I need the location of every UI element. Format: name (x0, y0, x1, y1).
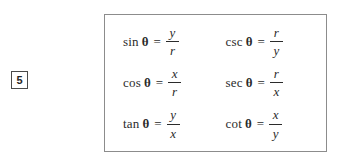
fraction: x y (269, 108, 282, 140)
fraction-numerator: y (168, 26, 178, 40)
fraction-denominator: y (271, 44, 281, 58)
theta-symbol: θ (246, 34, 253, 50)
equals-sign: = (258, 75, 265, 91)
fraction-bar (168, 82, 181, 83)
fraction: y r (166, 26, 179, 58)
formula-row: tan θ = y x cot θ = x y (113, 104, 318, 145)
fraction: x r (168, 67, 181, 99)
formula-csc: csc θ = r y (216, 26, 319, 58)
fraction-denominator: r (170, 85, 179, 99)
equation-number-label: 5 (16, 75, 22, 86)
theta-symbol: θ (245, 116, 252, 132)
fraction-bar (270, 41, 283, 42)
trig-identity-panel: sin θ = y r csc θ = r y cos θ = (104, 14, 327, 152)
fraction-numerator: x (271, 108, 281, 122)
theta-symbol: θ (246, 75, 253, 91)
equals-sign: = (257, 116, 264, 132)
equals-sign: = (154, 116, 161, 132)
fraction-numerator: x (170, 67, 180, 81)
theta-symbol: θ (144, 75, 151, 91)
fraction-denominator: x (168, 127, 178, 141)
function-name: cot (226, 116, 242, 132)
function-name: csc (226, 34, 243, 50)
fraction-numerator: r (272, 26, 281, 40)
fraction: y x (167, 108, 180, 140)
fraction-denominator: r (168, 44, 177, 58)
fraction-bar (166, 41, 179, 42)
formula-cos: cos θ = x r (113, 67, 216, 99)
formula-sin: sin θ = y r (113, 26, 216, 58)
function-name: tan (123, 116, 139, 132)
function-name: sin (123, 34, 139, 50)
fraction: r y (270, 26, 283, 58)
formula-row: sin θ = y r csc θ = r y (113, 21, 318, 62)
theta-symbol: θ (142, 34, 149, 50)
formula-row: cos θ = x r sec θ = r x (113, 62, 318, 103)
equals-sign: = (154, 34, 161, 50)
fraction-bar (270, 82, 283, 83)
fraction-denominator: x (271, 85, 281, 99)
fraction-bar (167, 124, 180, 125)
fraction-numerator: y (168, 108, 178, 122)
function-name: sec (226, 75, 243, 91)
formula-sec: sec θ = r x (216, 67, 319, 99)
equals-sign: = (258, 34, 265, 50)
equation-number-box: 5 (11, 71, 28, 89)
fraction-numerator: r (272, 67, 281, 81)
theta-symbol: θ (142, 116, 149, 132)
fraction: r x (270, 67, 283, 99)
formula-cot: cot θ = x y (216, 108, 319, 140)
fraction-denominator: y (271, 127, 281, 141)
function-name: cos (123, 75, 141, 91)
fraction-bar (269, 124, 282, 125)
equals-sign: = (156, 75, 163, 91)
formula-tan: tan θ = y x (113, 108, 216, 140)
